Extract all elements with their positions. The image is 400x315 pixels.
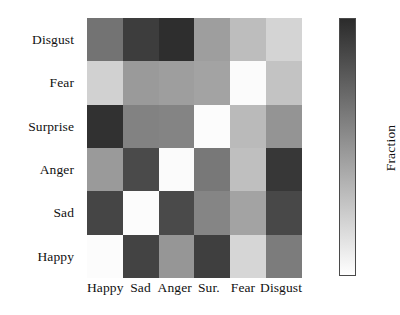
heatmap-cell-surprise-sur [194, 105, 230, 148]
heatmap-cell-disgust-disgust [266, 18, 302, 61]
heatmap-cell-surprise-sad [123, 105, 159, 148]
heatmap-cell-sad-fear [230, 191, 266, 234]
x-tick-label-sur: Sur. [192, 281, 226, 307]
heatmap-cell-fear-fear [230, 61, 266, 104]
heatmap-cell-surprise-happy [87, 105, 123, 148]
y-tick-label-sad: Sad [0, 191, 80, 234]
heatmap-cell-happy-anger [159, 235, 195, 278]
heatmap-cell-happy-happy [87, 235, 123, 278]
heatmap-cell-fear-disgust [266, 61, 302, 104]
heatmap-cell-sad-sad [123, 191, 159, 234]
heatmap-cell-anger-fear [230, 148, 266, 191]
y-tick-label-happy: Happy [0, 235, 80, 278]
heatmap-cell-sad-sur [194, 191, 230, 234]
heatmap-cell-disgust-anger [159, 18, 195, 61]
heatmap-cell-fear-sad [123, 61, 159, 104]
heatmap-cell-disgust-sur [194, 18, 230, 61]
heatmap-cell-fear-anger [159, 61, 195, 104]
heatmap-cell-happy-sur [194, 235, 230, 278]
heatmap-cell-sad-disgust [266, 191, 302, 234]
heatmap-cell-disgust-sad [123, 18, 159, 61]
x-tick-label-fear: Fear [226, 281, 260, 307]
heatmap-cell-anger-sur [194, 148, 230, 191]
heatmap-cell-surprise-fear [230, 105, 266, 148]
heatmap-grid [87, 18, 302, 278]
heatmap-cell-sad-happy [87, 191, 123, 234]
heatmap-cell-happy-fear [230, 235, 266, 278]
heatmap-cell-disgust-happy [87, 18, 123, 61]
x-axis-tick-labels: Happy Sad Anger Sur. Fear Disgust [87, 281, 302, 307]
heatmap-cell-fear-sur [194, 61, 230, 104]
y-axis-tick-labels: Disgust Fear Surprise Anger Sad Happy [0, 18, 80, 278]
heatmap-cell-disgust-fear [230, 18, 266, 61]
x-tick-label-anger: Anger [158, 281, 192, 307]
heatmap-cell-anger-anger [159, 148, 195, 191]
heatmap-cell-happy-sad [123, 235, 159, 278]
heatmap-cell-sad-anger [159, 191, 195, 234]
heatmap-cell-anger-disgust [266, 148, 302, 191]
x-tick-label-happy: Happy [87, 281, 124, 307]
x-tick-label-sad: Sad [124, 281, 158, 307]
y-tick-label-fear: Fear [0, 61, 80, 104]
heatmap-cell-anger-sad [123, 148, 159, 191]
heatmap-cell-fear-happy [87, 61, 123, 104]
heatmap-cell-surprise-anger [159, 105, 195, 148]
heatmap-cell-happy-disgust [266, 235, 302, 278]
y-tick-label-surprise: Surprise [0, 105, 80, 148]
colorbar [339, 18, 358, 278]
heatmap-cell-surprise-disgust [266, 105, 302, 148]
colorbar-gradient [339, 18, 356, 276]
heatmap-cell-anger-happy [87, 148, 123, 191]
colorbar-label: Fraction [380, 18, 400, 278]
y-tick-label-disgust: Disgust [0, 18, 80, 61]
y-tick-label-anger: Anger [0, 148, 80, 191]
x-tick-label-disgust: Disgust [260, 281, 302, 307]
